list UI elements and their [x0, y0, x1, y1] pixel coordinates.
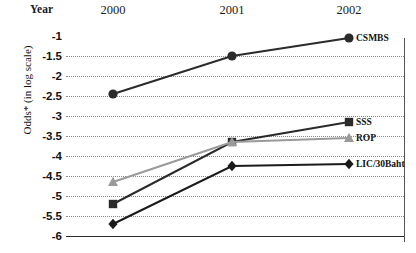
marker-sss-2000: [109, 200, 117, 208]
plot-area: CSMBSSSSROPLIC/30Baht: [66, 0, 416, 253]
y-tick--6: -6: [0, 230, 62, 242]
series-label-lic-30baht: LIC/30Baht: [356, 159, 405, 169]
marker-lic-30baht-2002: [344, 159, 353, 169]
series-line-lic-30baht: [113, 164, 349, 224]
y-tick--5: -5: [0, 190, 62, 202]
y-tick--4-5: -4.5: [0, 170, 62, 182]
series-line-csmbs: [113, 38, 349, 94]
y-tick--3: -3: [0, 110, 62, 122]
series-label-rop: ROP: [356, 133, 376, 143]
y-tick--5-5: -5.5: [0, 210, 62, 222]
y-tick--1: -1: [0, 30, 62, 42]
marker-csmbs-2000: [108, 89, 117, 98]
marker-lic-30baht-2001: [227, 161, 236, 171]
series-label-csmbs: CSMBS: [356, 33, 389, 43]
marker-lic-30baht-2000: [108, 219, 117, 229]
marker-csmbs-2001: [227, 51, 236, 60]
marker-sss-2002: [345, 118, 353, 126]
y-tick--2-5: -2.5: [0, 90, 62, 102]
y-tick--4: -4: [0, 150, 62, 162]
odds-log-scale-line-chart: Year 200020012002 Odds* (in log scale) -…: [0, 0, 416, 253]
series-label-sss: SSS: [356, 117, 372, 127]
y-tick--1-5: -1.5: [0, 50, 62, 62]
y-tick--3-5: -3.5: [0, 130, 62, 142]
y-axis-tick-labels: -1-1.5-2-2.5-3-3.5-4-4.5-5-5.5-6: [0, 0, 62, 253]
marker-csmbs-2002: [344, 33, 353, 42]
y-tick--2: -2: [0, 70, 62, 82]
